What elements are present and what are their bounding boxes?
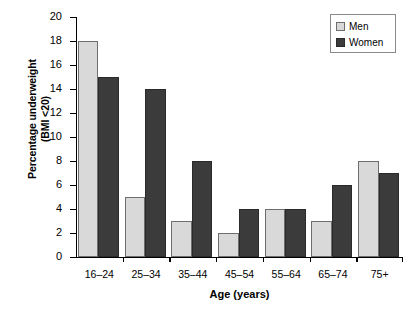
- x-axis-tick: [356, 257, 357, 262]
- x-axis-line: [76, 257, 403, 258]
- legend-swatch-women-icon: [336, 38, 345, 47]
- y-axis-tick: [70, 113, 76, 114]
- y-axis-tick: [70, 185, 76, 186]
- x-axis-tick: [310, 257, 311, 262]
- bar-men-0: [78, 41, 99, 257]
- y-axis-tick: [70, 65, 76, 66]
- bar-women-1: [145, 89, 166, 257]
- bar-women-0: [98, 77, 119, 257]
- y-axis-tick: [70, 161, 76, 162]
- x-axis-category-label: 75+: [356, 268, 403, 280]
- y-axis-tick: [70, 89, 76, 90]
- bar-men-1: [125, 197, 146, 257]
- bar-women-5: [332, 185, 353, 257]
- y-axis-tick-label: 14: [8, 82, 62, 94]
- y-axis-tick-label: 18: [8, 34, 62, 46]
- y-axis-tick-label: 8: [8, 154, 62, 166]
- x-axis-tick: [402, 257, 403, 262]
- y-axis-tick-label: 10: [8, 130, 62, 142]
- y-axis-tick-label: 0: [8, 250, 62, 262]
- y-axis-tick: [70, 233, 76, 234]
- y-axis-tick-label: 16: [8, 58, 62, 70]
- y-axis-tick-label: 4: [8, 202, 62, 214]
- x-axis-category-label: 16–24: [76, 268, 123, 280]
- y-axis-tick-label: 12: [8, 106, 62, 118]
- x-axis-category-label: 25–34: [123, 268, 170, 280]
- legend-swatch-men-icon: [336, 22, 345, 31]
- bar-chart: Percentage underweight (BMI <20) 0246810…: [0, 0, 420, 309]
- y-axis-tick-label: 20: [8, 10, 62, 22]
- y-axis-tick: [70, 257, 76, 258]
- bar-men-3: [218, 233, 239, 257]
- y-axis-tick-label: 6: [8, 178, 62, 190]
- legend-label-women: Women: [349, 37, 383, 48]
- x-axis-tick: [123, 257, 124, 262]
- y-axis-tick: [70, 41, 76, 42]
- legend-item-men: Men: [336, 19, 395, 34]
- x-axis-tick: [169, 257, 170, 262]
- x-axis-tick: [263, 257, 264, 262]
- bar-women-3: [239, 209, 260, 257]
- x-axis-category-label: 55–64: [263, 268, 310, 280]
- y-axis-tick: [70, 137, 76, 138]
- bar-women-6: [379, 173, 400, 257]
- bar-women-4: [285, 209, 306, 257]
- legend-label-men: Men: [349, 21, 368, 32]
- y-axis-tick-label: 2: [8, 226, 62, 238]
- x-axis-category-label: 65–74: [310, 268, 357, 280]
- legend-item-women: Women: [336, 35, 395, 50]
- y-axis-tick: [70, 17, 76, 18]
- bar-men-5: [311, 221, 332, 257]
- y-axis-tick: [70, 209, 76, 210]
- bar-women-2: [192, 161, 213, 257]
- legend: Men Women: [330, 14, 396, 53]
- bar-men-4: [265, 209, 286, 257]
- x-axis-title: Age (years): [76, 288, 403, 300]
- x-axis-tick: [216, 257, 217, 262]
- bar-men-6: [358, 161, 379, 257]
- x-axis-category-label: 35–44: [169, 268, 216, 280]
- x-axis-category-label: 45–54: [216, 268, 263, 280]
- bar-men-2: [171, 221, 192, 257]
